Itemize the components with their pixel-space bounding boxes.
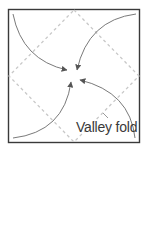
valley-fold-label: Valley fold [76,119,137,135]
